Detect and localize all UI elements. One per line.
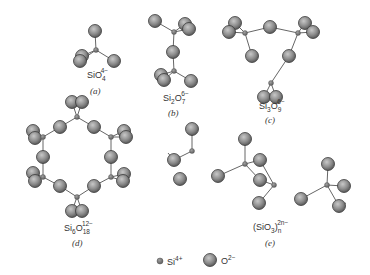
oxygen-atom-a	[108, 55, 121, 68]
formula-d: Si6O1812−	[64, 220, 93, 235]
caption-a: (a)	[90, 86, 101, 96]
legend-oxygen-label: O2−	[221, 254, 236, 266]
formula-c: Si3O96−	[259, 98, 285, 113]
silicon-atom-d	[75, 195, 80, 200]
oxygen-atom-b	[167, 46, 180, 59]
oxygen-atom-d	[88, 121, 101, 134]
caption-d: (d)	[72, 238, 83, 248]
silicon-atom-b	[172, 30, 177, 35]
oxygen-atom-d	[37, 151, 50, 164]
oxygen-atom-b	[183, 23, 196, 36]
formula-e: (SiO3)n2n−	[253, 219, 288, 234]
oxygen-atom-b	[149, 15, 162, 28]
legend-oxygen-icon	[204, 254, 217, 267]
oxygen-atom-c	[246, 50, 259, 63]
oxygen-atom-c	[223, 26, 236, 39]
oxygen-atom-d	[88, 180, 101, 193]
oxygen-atom-a	[74, 55, 87, 68]
oxygen-atom-d	[76, 96, 89, 109]
oxygen-atom-d	[54, 180, 67, 193]
oxygen-atom-d	[29, 175, 42, 188]
formula-a: SiO44−	[87, 67, 108, 82]
silicon-atom-e	[325, 183, 330, 188]
oxygen-atom-e	[168, 154, 181, 167]
svg-text:(SiO3)n2n−: (SiO3)n2n−	[253, 219, 288, 234]
silicon-atom-d	[41, 135, 46, 140]
caption-b: (b)	[168, 108, 179, 118]
silicon-atom-d	[41, 175, 46, 180]
oxygen-atom-e	[239, 133, 252, 146]
diagram-canvas: SiO44− (a) Si2O76− (b) Si3O96− (c) Si6O1…	[0, 0, 370, 275]
oxygen-atom-c	[283, 50, 296, 63]
silicon-atom-d	[75, 115, 80, 120]
caption-c: (c)	[265, 115, 275, 125]
silicon-atom-c	[243, 31, 248, 36]
oxygen-atom-e	[333, 200, 346, 213]
oxygen-atom-b	[185, 75, 198, 88]
legend: Si4+ O2−	[157, 254, 236, 268]
silicon-atom-e	[243, 162, 248, 167]
caption-e: (e)	[265, 238, 275, 248]
oxygen-atom-e	[338, 180, 351, 193]
oxygen-atom-c	[264, 21, 277, 34]
oxygen-atom-e	[253, 197, 266, 210]
oxygen-atom-b	[158, 74, 171, 87]
svg-text:Si6O1812−: Si6O1812−	[64, 220, 93, 235]
oxygen-atom-e	[295, 193, 308, 206]
oxygen-atom-c	[307, 26, 320, 39]
oxygen-atom-e	[254, 174, 267, 187]
silicon-atom-e	[190, 149, 195, 154]
svg-text:Si3O96−: Si3O96−	[259, 98, 285, 113]
silicon-atom-e	[272, 183, 277, 188]
oxygen-atom-e	[186, 123, 199, 136]
svg-text:SiO44−: SiO44−	[87, 67, 108, 82]
oxygen-atom-e	[212, 170, 225, 183]
legend-silicon-label: Si4+	[167, 255, 183, 267]
silicon-atom-c	[269, 81, 274, 86]
oxygen-atom-d	[29, 132, 42, 145]
oxygen-atom-d	[105, 151, 118, 164]
legend-silicon-icon	[157, 258, 163, 264]
silicon-atom-a	[94, 48, 99, 53]
oxygen-atom-d	[120, 131, 133, 144]
atoms-layer	[27, 15, 351, 218]
oxygen-atom-e	[174, 173, 187, 186]
oxygen-atom-e	[254, 154, 267, 167]
oxygen-atom-d	[76, 205, 89, 218]
silicate-structures-diagram: SiO44− (a) Si2O76− (b) Si3O96− (c) Si6O1…	[0, 0, 370, 275]
silicon-atom-d	[109, 175, 114, 180]
oxygen-atom-a	[89, 25, 102, 38]
silicon-atom-d	[109, 135, 114, 140]
svg-text:Si2O76−: Si2O76−	[163, 90, 189, 105]
oxygen-atom-d	[117, 175, 130, 188]
formula-b: Si2O76−	[163, 90, 189, 105]
silicon-atom-c	[296, 31, 301, 36]
silicon-atom-b	[172, 69, 177, 74]
oxygen-atom-e	[322, 158, 335, 171]
oxygen-atom-d	[54, 121, 67, 134]
